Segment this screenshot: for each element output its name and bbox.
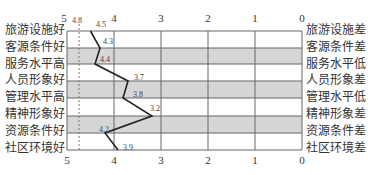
data-label: 4.2 (99, 125, 109, 134)
data-label: 3.9 (123, 143, 133, 152)
data-label: 4.4 (100, 55, 110, 64)
left-label: 精神形象好 (5, 107, 65, 121)
left-label: 旅游设施好 (5, 23, 65, 37)
tick-bottom: 2 (205, 154, 211, 166)
left-label: 管理水平高 (5, 90, 65, 104)
tick-top: 1 (252, 12, 258, 24)
right-label: 服务水平低 (306, 57, 366, 71)
data-label: 4.5 (96, 20, 106, 29)
tick-bottom: 1 (252, 154, 258, 166)
tick-bottom: 5 (64, 154, 70, 166)
right-label: 管理水平低 (306, 90, 366, 104)
tick-top: 0 (299, 12, 305, 24)
data-label: 3.2 (150, 104, 160, 113)
tick-top: 4 (111, 12, 117, 24)
left-label: 资源条件好 (5, 124, 65, 138)
tick-top: 3 (158, 12, 164, 24)
tick-top: 2 (205, 12, 211, 24)
right-label: 客源条件差 (306, 40, 366, 54)
tick-bottom: 3 (158, 154, 164, 166)
profile-chart: 5 4 3 2 1 0 5 4 3 2 1 0 旅游设施好 客源条件好 服务水平… (0, 0, 368, 175)
band (67, 81, 302, 98)
data-label: 4.3 (103, 37, 113, 46)
left-label: 人员形象好 (5, 73, 65, 87)
right-label: 资源条件差 (306, 124, 366, 138)
right-label: 人员形象差 (306, 73, 366, 87)
left-label: 服务水平高 (5, 57, 65, 71)
right-label: 社区环境差 (306, 141, 366, 155)
tick-bottom: 4 (111, 154, 117, 166)
reference-value-label: 4.8 (72, 16, 82, 25)
right-label: 旅游设施差 (306, 23, 366, 37)
right-label: 精神形象差 (306, 107, 366, 121)
data-label: 3.7 (134, 73, 144, 82)
data-label: 3.8 (133, 90, 143, 99)
tick-bottom: 0 (299, 154, 305, 166)
left-label: 客源条件好 (5, 40, 65, 54)
left-label: 社区环境好 (5, 141, 65, 155)
